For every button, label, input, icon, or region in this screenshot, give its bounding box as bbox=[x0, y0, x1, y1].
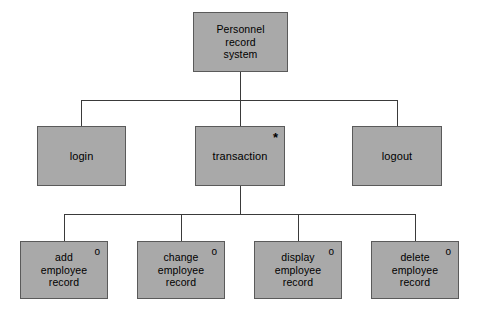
node-delete-employee-record[interactable]: delete employee record o bbox=[371, 241, 459, 299]
structure-chart-canvas: Personnel record system login transactio… bbox=[0, 0, 482, 319]
edge-root-stem bbox=[240, 72, 241, 101]
iteration-asterisk-icon: * bbox=[273, 131, 278, 144]
node-label-login: login bbox=[66, 149, 98, 163]
node-display-employee-record[interactable]: display employee record o bbox=[254, 241, 342, 299]
edge-drop-logout bbox=[397, 100, 398, 127]
node-change-employee-record[interactable]: change employee record o bbox=[137, 241, 225, 299]
edge-drop-delete bbox=[415, 214, 416, 241]
edge-drop-transaction bbox=[240, 100, 241, 127]
node-transaction[interactable]: transaction * bbox=[195, 126, 285, 186]
node-label-delete: delete employee record bbox=[388, 251, 442, 289]
node-label-root: Personnel record system bbox=[212, 23, 268, 61]
node-label-display: display employee record bbox=[271, 251, 325, 289]
edge-level2-bus bbox=[64, 214, 415, 215]
selection-circle-icon: o bbox=[211, 247, 217, 257]
node-label-transaction: transaction bbox=[209, 149, 272, 163]
node-label-add: add employee record bbox=[37, 251, 91, 289]
node-personnel-record-system[interactable]: Personnel record system bbox=[193, 12, 288, 72]
edge-drop-add bbox=[64, 214, 65, 241]
edge-level1-bus bbox=[81, 100, 397, 101]
node-add-employee-record[interactable]: add employee record o bbox=[20, 241, 108, 299]
selection-circle-icon: o bbox=[328, 247, 334, 257]
edge-drop-display bbox=[298, 214, 299, 241]
edge-transaction-stem bbox=[240, 186, 241, 215]
selection-circle-icon: o bbox=[445, 247, 451, 257]
node-logout[interactable]: logout bbox=[352, 126, 442, 186]
selection-circle-icon: o bbox=[94, 247, 100, 257]
node-login[interactable]: login bbox=[37, 126, 126, 186]
edge-drop-login bbox=[81, 100, 82, 127]
edge-drop-change bbox=[181, 214, 182, 241]
node-label-logout: logout bbox=[378, 149, 417, 163]
node-label-change: change employee record bbox=[154, 251, 208, 289]
